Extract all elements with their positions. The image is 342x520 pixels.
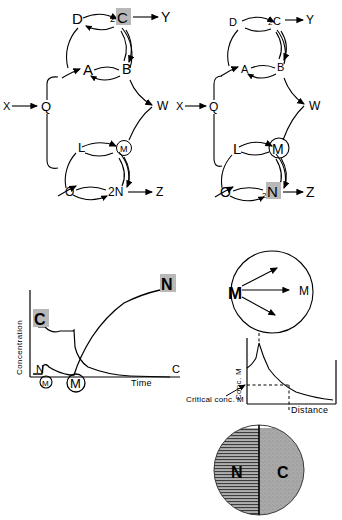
node-C-left: C	[117, 9, 128, 26]
output-Z-right: Z	[306, 184, 315, 200]
input-X-right: X	[176, 100, 184, 112]
node-M-right: M	[272, 141, 284, 157]
annotation-critical-conc: Critical conc. M	[186, 395, 244, 404]
output-Y-left: Y	[161, 9, 171, 25]
node-L-left: L	[78, 140, 85, 155]
node-2C-prefix-left: 2	[110, 14, 115, 24]
region-label-C: C	[277, 464, 289, 481]
pathway-diagram-left: D 2 C A B Y X Q W	[3, 8, 171, 200]
figure-canvas: D 2 C A B Y X Q W	[0, 0, 342, 520]
series-label-N-end: N	[161, 276, 173, 293]
node-L-right: L	[233, 140, 241, 157]
distance-profile-chart: Conc. M Critical conc. M Distance	[186, 333, 336, 415]
node-D-left: D	[72, 10, 83, 27]
node-Q-right: Q	[209, 100, 218, 114]
node-A-right: A	[241, 63, 249, 75]
node-A-left: A	[83, 61, 93, 78]
series-label-C-start: C	[34, 311, 46, 328]
morphogen-source-circle: M M	[228, 251, 313, 333]
series-C-curve	[38, 327, 170, 377]
x-axis-label-time: Time	[131, 378, 152, 388]
node-Q-left: Q	[41, 99, 51, 114]
marker-M-large-label: M	[70, 376, 81, 391]
x-axis-label-distance: Distance	[291, 405, 328, 415]
series-concM-curve	[247, 343, 333, 400]
node-O-left: O	[65, 185, 74, 199]
figure-root: D 2 C A B Y X Q W	[0, 0, 342, 520]
node-2N-left: 2N	[108, 185, 123, 199]
source-arrow-up	[242, 268, 277, 286]
source-field-label-M: M	[299, 284, 309, 298]
series-N-curve	[33, 290, 160, 375]
output-W-left: W	[157, 99, 169, 113]
node-D-right: D	[229, 16, 237, 28]
node-N-right: N	[267, 183, 278, 200]
output-Z-left: Z	[156, 185, 163, 199]
node-M-left: M	[120, 144, 128, 154]
pathway-diagram-right: D 2 C A B Y X Q W	[176, 13, 321, 201]
node-B-right: B	[277, 61, 284, 73]
tissue-fate-circle: N C	[214, 425, 304, 515]
input-X-left: X	[3, 100, 11, 112]
time-course-chart: Concentration C N N C M M Time	[15, 274, 180, 392]
region-label-N: N	[231, 464, 243, 481]
output-Y-right: Y	[306, 13, 314, 27]
node-C-right: C	[273, 15, 281, 27]
source-arrow-down	[242, 297, 275, 315]
marker-M-small-label: M	[42, 379, 49, 388]
y-axis-label-concentration: Concentration	[15, 320, 24, 375]
series-label-C-end: C	[172, 363, 180, 375]
node-O-right: O	[220, 184, 231, 200]
output-W-right: W	[309, 99, 321, 113]
node-B-left: B	[122, 61, 131, 77]
source-label-M: M	[228, 284, 242, 303]
series-label-N-start: N	[36, 363, 44, 375]
